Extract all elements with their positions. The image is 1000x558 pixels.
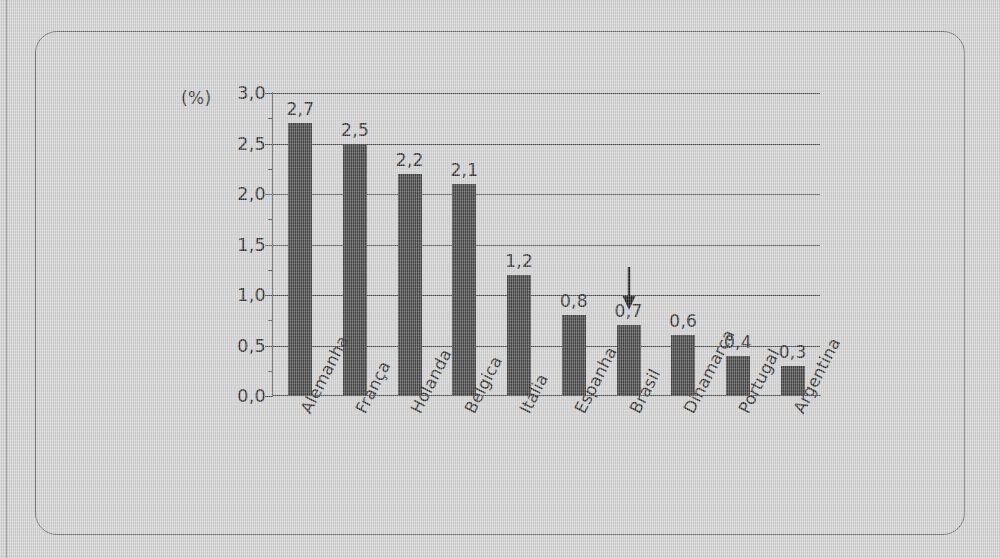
bar	[343, 144, 367, 397]
y-axis-tick	[265, 396, 273, 397]
y-axis-tick-label: 2,0	[237, 184, 266, 204]
y-axis-tick-label: 1,0	[237, 285, 266, 305]
y-axis-tick-label: 2,5	[237, 134, 266, 154]
y-axis-tick	[265, 194, 273, 195]
bar	[288, 123, 312, 396]
bar-value-label: 2,2	[396, 150, 424, 170]
bar	[398, 174, 422, 396]
y-axis-tick	[265, 346, 273, 347]
y-axis-minor-tick	[268, 371, 273, 372]
y-axis-tick-labels: 3,02,52,01,51,00,50,0	[218, 93, 266, 396]
arrow-down-icon	[621, 267, 637, 310]
bar-value-label: 0,8	[560, 291, 588, 311]
bar	[507, 275, 531, 396]
y-axis-minor-tick	[268, 320, 273, 321]
bar	[452, 184, 476, 396]
bar-value-label: 2,1	[450, 160, 478, 180]
bar-value-label: 2,5	[341, 120, 369, 140]
y-axis-tick	[265, 295, 273, 296]
y-axis-tick-label: 1,5	[237, 235, 266, 255]
plot-area: 2,72,52,22,11,20,80,70,60,40,3	[273, 93, 820, 396]
y-axis-minor-tick	[268, 270, 273, 271]
y-axis-unit-label: (%)	[181, 88, 211, 108]
y-axis-tick	[265, 144, 273, 145]
y-axis-tick	[265, 93, 273, 94]
y-axis-minor-tick	[268, 118, 273, 119]
bar-value-label: 1,2	[505, 251, 533, 271]
y-axis-tick	[265, 245, 273, 246]
y-axis-minor-tick	[268, 219, 273, 220]
y-axis-tick-label: 0,0	[237, 386, 266, 406]
gridline	[273, 93, 820, 94]
y-axis-tick-label: 3,0	[237, 83, 266, 103]
bar-chart: (%) 3,02,52,01,51,00,50,0 2,72,52,22,11,…	[0, 0, 1000, 558]
bar-value-label: 0,3	[779, 342, 807, 362]
y-axis-tick-label: 0,5	[237, 336, 266, 356]
y-axis-minor-tick	[268, 169, 273, 170]
bar-value-label: 0,6	[669, 311, 697, 331]
bar-value-label: 2,7	[286, 99, 314, 119]
